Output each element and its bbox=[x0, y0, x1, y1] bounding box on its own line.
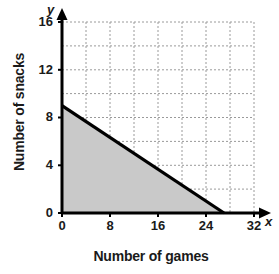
x-tick-label-16: 16 bbox=[147, 218, 169, 233]
x-tick-label-24: 24 bbox=[195, 218, 217, 233]
y-axis-arrow-icon bbox=[57, 8, 68, 20]
y-tick-label-4: 4 bbox=[31, 157, 53, 172]
x-axis-title: Number of games bbox=[46, 248, 256, 264]
x-tick-label-0: 0 bbox=[51, 218, 73, 233]
chart-container: 0 4 8 12 16 0 8 16 24 32 y x Number of s… bbox=[0, 0, 279, 274]
y-axis-title: Number of snacks bbox=[11, 17, 27, 207]
y-axis-variable-label: y bbox=[47, 2, 54, 17]
x-axis-variable-label: x bbox=[265, 214, 272, 229]
y-tick-label-8: 8 bbox=[31, 109, 53, 124]
x-tick-label-8: 8 bbox=[99, 218, 121, 233]
x-tick-label-32: 32 bbox=[243, 218, 265, 233]
chart-svg bbox=[0, 0, 279, 274]
y-tick-label-12: 12 bbox=[23, 62, 53, 77]
y-tick-label-0: 0 bbox=[31, 205, 53, 220]
